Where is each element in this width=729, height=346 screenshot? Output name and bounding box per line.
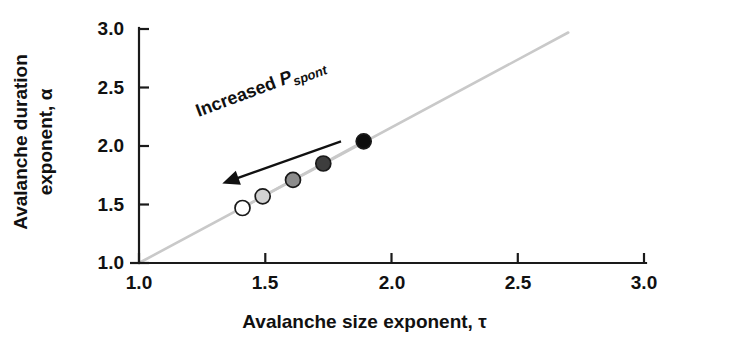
y-tick-label-1.5: 1.5 [76,194,124,216]
y-axis-title-wrapper: Avalanche duration exponent, α [8,12,68,272]
data-point-5 [356,134,371,149]
avalanche-exponent-scatter-figure: 3.0 2.5 2.0 1.5 1.0 1.0 1.5 2.0 2.5 3.0 … [0,0,729,346]
arrow-head [222,171,241,185]
x-tick-label-2.5: 2.5 [494,272,542,294]
y-axis-title: Avalanche duration exponent, α [8,12,58,272]
y-axis-title-line-2: exponent, α [33,12,58,272]
y-tick-label-3.0: 3.0 [76,18,124,40]
x-tick-label-2.0: 2.0 [368,272,416,294]
y-tick-label-2.0: 2.0 [76,135,124,157]
y-tick-label-1.0: 1.0 [76,252,124,274]
x-tick-label-3.0: 3.0 [620,272,668,294]
y-axis-title-line-1: Avalanche duration [8,12,33,272]
data-point-1 [235,201,250,216]
data-point-4 [316,156,331,171]
x-axis-title: Avalanche size exponent, τ [0,311,729,333]
y-tick-label-2.5: 2.5 [76,77,124,99]
annotation-subscript: spont [291,62,329,88]
x-tick-label-1.0: 1.0 [115,272,163,294]
data-point-2 [255,189,270,204]
x-tick-label-1.5: 1.5 [241,272,289,294]
data-point-3 [286,172,301,187]
